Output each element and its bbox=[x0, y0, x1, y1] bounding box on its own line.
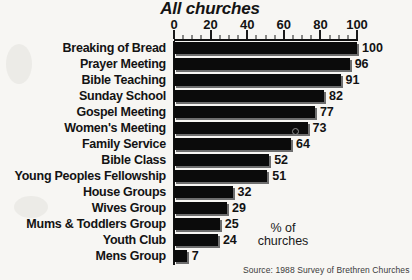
bar bbox=[174, 250, 187, 262]
x-axis-ticks bbox=[174, 30, 358, 39]
bar bbox=[174, 202, 227, 214]
category-label: Prayer Meeting bbox=[0, 57, 170, 73]
bar bbox=[174, 74, 341, 86]
bar-row: 64 bbox=[174, 137, 357, 153]
bar-value-label: 32 bbox=[235, 185, 252, 199]
bar-value-label: 52 bbox=[271, 153, 288, 167]
category-label: Young Peoples Fellowship bbox=[0, 169, 170, 185]
category-label: House Groups bbox=[0, 185, 170, 201]
bar-value-label: 82 bbox=[326, 89, 343, 103]
bar-row: 32 bbox=[174, 185, 357, 201]
category-label: Family Service bbox=[0, 137, 170, 153]
bar-row: 91 bbox=[174, 73, 357, 89]
bar bbox=[174, 90, 324, 102]
category-labels: Breaking of BreadPrayer MeetingBible Tea… bbox=[0, 41, 170, 265]
bar-value-label: 96 bbox=[352, 57, 369, 71]
bar bbox=[174, 170, 267, 182]
bar-row: 96 bbox=[174, 57, 357, 73]
bar bbox=[174, 122, 308, 134]
scan-speck-icon bbox=[292, 128, 299, 135]
category-label: Youth Club bbox=[0, 233, 170, 249]
bar-value-label: 29 bbox=[229, 201, 246, 215]
bar-row: 52 bbox=[174, 153, 357, 169]
bar-row: 100 bbox=[174, 41, 357, 57]
x-axis-major-tick bbox=[246, 30, 248, 39]
bar-row: 82 bbox=[174, 89, 357, 105]
category-label: Breaking of Bread bbox=[0, 41, 170, 57]
bar bbox=[174, 42, 357, 54]
bar bbox=[174, 186, 233, 198]
bar-row: 73 bbox=[174, 121, 357, 137]
bar-value-label: 51 bbox=[269, 169, 286, 183]
bar-row: 77 bbox=[174, 105, 357, 121]
category-label: Bible Teaching bbox=[0, 73, 170, 89]
chart-container: All churches 020406080100 Breaking of Br… bbox=[0, 0, 412, 280]
bar bbox=[174, 138, 291, 150]
bar-value-label: 64 bbox=[293, 137, 310, 151]
category-label: Sunday School bbox=[0, 89, 170, 105]
bar-value-label: 77 bbox=[317, 105, 334, 119]
x-axis-major-tick bbox=[356, 30, 358, 39]
bar-row: 29 bbox=[174, 201, 357, 217]
category-label: Wives Group bbox=[0, 201, 170, 217]
bar-value-label: 7 bbox=[189, 249, 199, 263]
bar bbox=[174, 106, 315, 118]
bar bbox=[174, 218, 220, 230]
bar-row: 51 bbox=[174, 169, 357, 185]
category-label: Gospel Meeting bbox=[0, 105, 170, 121]
source-note: Source: 1988 Survey of Brethren Churches bbox=[243, 265, 410, 275]
bar bbox=[174, 154, 269, 166]
bar-row: 7 bbox=[174, 249, 357, 265]
category-label: Women's Meeting bbox=[0, 121, 170, 137]
bar-value-label: 100 bbox=[359, 41, 383, 55]
category-label: Bible Class bbox=[0, 153, 170, 169]
bar bbox=[174, 58, 350, 70]
category-label: Mens Group bbox=[0, 249, 170, 265]
x-axis-major-tick bbox=[173, 30, 175, 39]
x-axis-major-tick bbox=[319, 30, 321, 39]
x-axis-major-tick bbox=[210, 30, 212, 39]
axis-note-line2: churches bbox=[240, 235, 326, 248]
bar bbox=[174, 234, 218, 246]
bar-value-label: 25 bbox=[222, 217, 239, 231]
x-axis-major-tick bbox=[283, 30, 285, 39]
bar-value-label: 73 bbox=[310, 121, 327, 135]
bar-value-label: 24 bbox=[220, 233, 237, 247]
category-label: Mums & Toddlers Group bbox=[0, 217, 170, 233]
axis-note: % of churches bbox=[240, 222, 326, 248]
bar-value-label: 91 bbox=[343, 73, 360, 87]
